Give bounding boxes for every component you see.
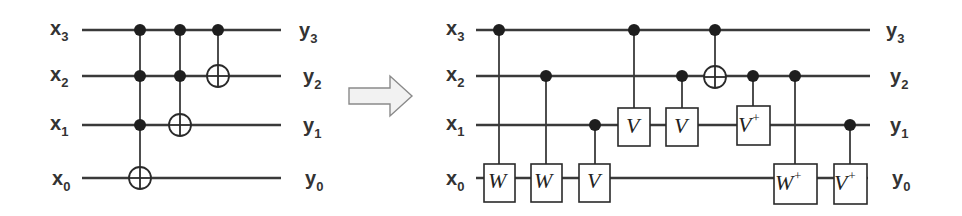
right-output-y3: y3: [886, 19, 904, 46]
control-dot-icon: [134, 24, 146, 36]
left-gate-cnot: [207, 24, 229, 87]
left-gate-toffoli-2: [169, 24, 191, 136]
right-output-y2: y2: [890, 65, 908, 92]
control-dot-icon: [134, 70, 146, 82]
control-dot-icon: [628, 24, 640, 36]
circuit-diagram: x3 x2 x1 x0: [0, 0, 962, 216]
control-dot-icon: [789, 70, 801, 82]
left-gate-toffoli-1: [129, 24, 151, 189]
gate-w-2: W: [531, 70, 562, 202]
left-input-x3: x3: [50, 17, 68, 44]
right-input-x2: x2: [446, 63, 464, 90]
right-input-x3: x3: [446, 17, 464, 44]
left-input-x0: x0: [52, 167, 70, 194]
gate-v-1: V: [579, 119, 610, 202]
gate-v-3: V: [666, 70, 698, 146]
control-dot-icon: [709, 24, 721, 36]
svg-text:W: W: [534, 168, 554, 193]
right-input-x1: x1: [446, 112, 464, 139]
right-input-x0: x0: [446, 167, 464, 194]
control-dot-icon: [174, 70, 186, 82]
right-arrow-icon: [349, 76, 412, 116]
left-input-x2: x2: [50, 63, 68, 90]
control-dot-icon: [844, 119, 856, 131]
right-circuit: x3 x2 x1 x0 W W V: [446, 17, 910, 204]
control-dot-icon: [589, 119, 601, 131]
control-dot-icon: [134, 119, 146, 131]
gate-v-dagger-1: V+: [737, 70, 770, 145]
control-dot-icon: [174, 24, 186, 36]
control-dot-icon: [212, 24, 224, 36]
left-output-y1: y1: [303, 114, 321, 141]
control-dot-icon: [540, 70, 552, 82]
gate-w-dagger: W+: [774, 70, 817, 204]
left-output-y2: y2: [303, 65, 321, 92]
svg-text:W: W: [488, 168, 508, 193]
right-output-y1: y1: [890, 114, 908, 141]
control-dot-icon: [493, 24, 505, 36]
left-input-x1: x1: [50, 112, 68, 139]
gate-w-1: W: [484, 24, 515, 202]
left-output-y3: y3: [299, 19, 317, 46]
control-dot-icon: [747, 70, 759, 82]
gate-v-dagger-2: V+: [834, 119, 867, 204]
gate-v-2: V: [618, 24, 650, 146]
control-dot-icon: [676, 70, 688, 82]
gate-cnot: [704, 24, 726, 88]
right-output-y0: y0: [892, 167, 910, 194]
left-circuit: x3 x2 x1 x0: [50, 17, 323, 194]
left-output-y0: y0: [305, 167, 323, 194]
